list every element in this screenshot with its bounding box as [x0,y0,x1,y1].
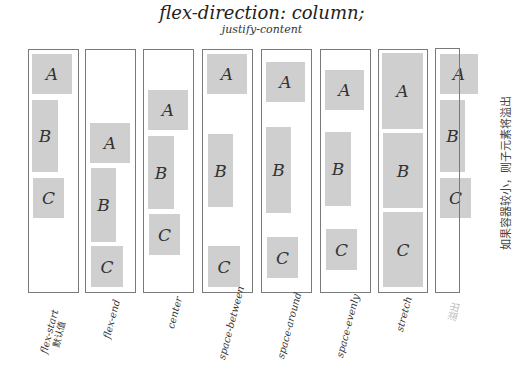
label-text: space-between [216,285,246,361]
box-b: B [266,127,291,213]
label-text: space-evenly [334,293,361,359]
box-c: C [383,212,423,287]
box-a: A [325,70,364,110]
label-space-evenly: space-evenly [334,293,361,359]
box-b: B [32,100,58,172]
box-c: C [326,229,357,270]
box-a: A [32,54,72,94]
label-text: 溢出 [446,301,462,323]
label-flex-start: flex-start 默认值 [38,308,71,357]
overflow-note: 如果容器较小，则子元素将溢出 [497,96,513,250]
diagram-title: flex-direction: column; [0,2,524,23]
box-b: B [383,133,423,208]
box-c: C [267,237,298,278]
box-a: A [382,53,423,129]
box-c: C [208,246,240,287]
box-a: A [266,62,305,102]
box-a: A [90,123,130,163]
label-text: stretch [394,295,414,333]
box-a: A [148,90,188,130]
box-b: B [440,100,465,172]
label-stretch: stretch [394,295,414,333]
label-flex-end: flex-end [101,298,122,340]
diagram-subtitle: justify-content [0,23,524,36]
label-text: flex-end [101,298,122,340]
box-b: B [208,134,233,207]
box-c: C [91,246,123,287]
box-b: B [325,132,351,206]
box-c: C [149,214,180,255]
box-a: A [440,54,478,94]
label-text: space-around [275,291,303,360]
box-a: A [207,54,247,94]
box-c: C [440,178,471,218]
label-space-around: space-around [275,291,303,360]
box-b: B [91,168,116,242]
label-text: center [165,295,184,329]
label-center: center [165,295,184,329]
box-b: B [148,136,174,209]
box-c: C [33,178,64,218]
label-overflow: 溢出 [446,301,462,323]
label-space-between: space-between [216,285,246,361]
